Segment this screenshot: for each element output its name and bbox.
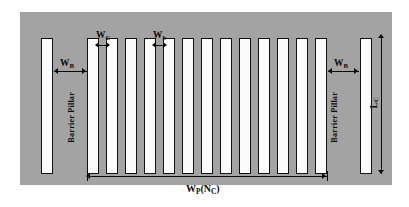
- w-panel-label: WP(NC): [186, 184, 220, 196]
- chain-pillar: [258, 38, 270, 174]
- l-c-label: LC: [370, 97, 379, 109]
- w-panel-dimline: [87, 176, 327, 177]
- w-c-arrowhead-end: [106, 42, 110, 48]
- w-c-label: WC: [96, 31, 110, 41]
- w-barrier-left-symbol: W: [60, 58, 69, 68]
- w-barrier-right-symbol: W: [334, 58, 343, 68]
- w-barrier-right-label: WB: [334, 59, 348, 69]
- barrier-pillar-left-label: Barrier Pillar: [68, 92, 76, 143]
- w-c-arrowhead-start: [95, 42, 99, 48]
- l-c-subscript: C: [372, 97, 379, 102]
- w-b-small-dimline: [156, 45, 163, 46]
- pillar-layout-figure: Barrier Pillar Barrier Pillar WB WB WC W…: [0, 0, 409, 207]
- w-c-subscript: C: [105, 34, 110, 41]
- w-c-dimline: [99, 45, 106, 46]
- chain-pillar: [144, 38, 156, 174]
- chain-pillar: [315, 38, 327, 174]
- w-panel-tick-start: [87, 171, 88, 181]
- chain-pillar: [201, 38, 213, 174]
- w-b-small-label: Wb: [153, 31, 166, 41]
- w-b-small-subscript: b: [162, 34, 166, 41]
- w-barrier-left-arrowhead-start: [54, 68, 58, 74]
- w-panel-symbol: W: [186, 183, 196, 194]
- w-b-small-arrowhead-end: [163, 42, 167, 48]
- chain-pillar: [277, 38, 289, 174]
- w-barrier-left-subscript: B: [69, 62, 74, 69]
- chain-pillar: [220, 38, 232, 174]
- chain-pillar: [182, 38, 194, 174]
- chain-pillar: [125, 38, 137, 174]
- w-barrier-right-arrowhead-end: [354, 68, 358, 74]
- w-barrier-right-subscript: B: [343, 62, 348, 69]
- w-panel-paren-open: (N: [200, 183, 211, 194]
- chain-pillar: [106, 38, 118, 174]
- w-panel-arrowhead-end: [322, 173, 326, 179]
- w-barrier-right-arrowhead-start: [328, 68, 332, 74]
- barrier-pillar-right-label: Barrier Pillar: [331, 92, 339, 143]
- l-c-symbol: L: [369, 102, 379, 108]
- w-b-small-symbol: W: [153, 30, 162, 40]
- l-c-arrowhead-top: [378, 34, 384, 38]
- chain-pillar: [239, 38, 251, 174]
- l-c-dimline: [381, 38, 382, 174]
- w-panel-paren-close: ): [216, 183, 219, 194]
- chain-pillar: [87, 38, 99, 174]
- w-barrier-left-arrowhead-end: [82, 68, 86, 74]
- chain-pillar: [296, 38, 308, 174]
- barrier-pillar-left: [41, 38, 53, 174]
- l-c-arrowhead-bottom: [378, 170, 384, 174]
- w-panel-tick-end: [327, 171, 328, 181]
- chain-pillar: [163, 38, 175, 174]
- w-c-symbol: W: [96, 30, 105, 40]
- w-barrier-left-label: WB: [60, 59, 74, 69]
- w-b-small-arrowhead-start: [152, 42, 156, 48]
